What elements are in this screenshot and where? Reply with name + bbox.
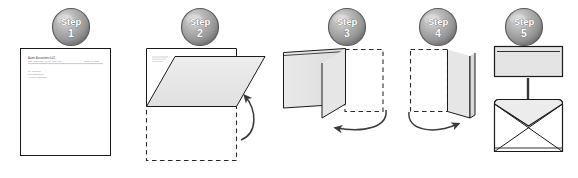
badge-word: Step bbox=[337, 16, 358, 27]
step-2-group bbox=[147, 49, 266, 161]
letterhead-page bbox=[21, 49, 111, 156]
badge-word: Step bbox=[428, 16, 449, 27]
address-line-2: 5678 Oak Street bbox=[28, 73, 44, 75]
dashed-ghost-step3 bbox=[345, 50, 383, 112]
document-company: Acme Associates LLC bbox=[28, 56, 55, 60]
step-badge-1: Step 1 bbox=[53, 9, 90, 46]
step-4-group bbox=[409, 50, 475, 130]
step-1-group: Acme Associates LLC 1234 Corporate Avenu… bbox=[21, 49, 111, 156]
badge-word: Step bbox=[190, 16, 211, 27]
badge-number: 5 bbox=[521, 27, 527, 39]
standing-panel-edge-step4 bbox=[470, 53, 475, 118]
fold-arrow-right bbox=[409, 112, 458, 130]
step-badge-4: Step 4 bbox=[420, 9, 457, 46]
fold-arrow-left bbox=[336, 110, 386, 130]
folded-letter bbox=[495, 47, 563, 77]
step-3-group bbox=[284, 49, 387, 130]
fold-arrow-up bbox=[241, 96, 254, 140]
steps-figure: Acme Associates LLC 1234 Corporate Avenu… bbox=[0, 0, 578, 178]
dashed-ghost-step4 bbox=[411, 50, 448, 112]
dashed-ghost-step2 bbox=[147, 107, 237, 161]
standing-panel-step4 bbox=[448, 50, 471, 119]
badge-number: 1 bbox=[68, 27, 74, 39]
badge-number: 2 bbox=[197, 27, 203, 39]
badge-number: 3 bbox=[344, 27, 350, 39]
address-line-1: Mr. John Doe bbox=[28, 70, 42, 72]
step-5-group bbox=[495, 47, 563, 152]
badge-number: 4 bbox=[435, 27, 441, 39]
step-badge-2: Step 2 bbox=[182, 9, 219, 46]
step-badge-3: Step 3 bbox=[329, 9, 366, 46]
step-badge-5: Step 5 bbox=[506, 9, 543, 46]
folding-instructions-diagram: Acme Associates LLC 1234 Corporate Avenu… bbox=[0, 0, 578, 178]
badge-word: Step bbox=[61, 16, 82, 27]
badge-word: Step bbox=[514, 16, 535, 27]
